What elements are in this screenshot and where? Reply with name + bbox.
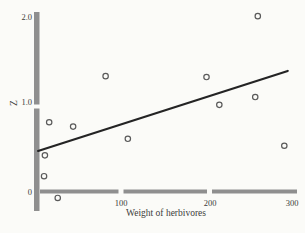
data-point — [217, 102, 222, 107]
y-tick-label-0: 0 — [28, 187, 32, 197]
data-point — [255, 13, 260, 18]
y-axis — [34, 12, 40, 211]
x-tick-label-200: 200 — [204, 198, 217, 208]
x-axis-title: Weight of herbivores — [126, 208, 206, 218]
data-point — [70, 124, 75, 129]
y-tick-label-1: 1.0 — [21, 97, 32, 107]
data-point — [46, 120, 51, 125]
trend-line — [38, 71, 288, 151]
data-point — [204, 74, 209, 79]
data-point — [41, 174, 46, 179]
scatter-plot-figure: 2.0 1.0 0 Z 100 200 300 Weight of herbiv… — [0, 0, 305, 233]
data-point — [55, 195, 60, 200]
x-tick-label-100: 100 — [115, 198, 128, 208]
data-point — [282, 143, 287, 148]
data-point — [253, 94, 258, 99]
y-axis-title: Z — [9, 100, 19, 106]
x-tick-label-300: 300 — [286, 198, 299, 208]
data-point — [42, 153, 47, 158]
x-axis — [40, 190, 297, 194]
chart-canvas: 2.0 1.0 0 Z 100 200 300 Weight of herbiv… — [0, 0, 305, 233]
data-points-layer — [41, 13, 287, 200]
trend-line-layer — [38, 71, 288, 151]
data-point — [125, 136, 130, 141]
data-point — [103, 73, 108, 78]
y-tick-label-2: 2.0 — [21, 12, 32, 22]
